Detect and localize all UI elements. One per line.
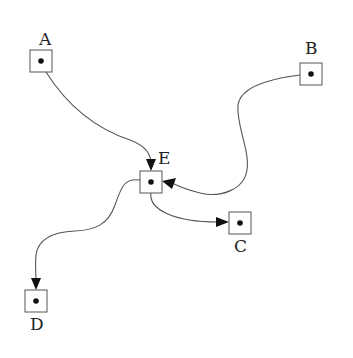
node-c-dot bbox=[237, 220, 243, 226]
arrowhead-e-to-d bbox=[31, 278, 41, 290]
edge-a-to-e bbox=[46, 72, 151, 162]
node-d-dot bbox=[33, 298, 39, 304]
node-e-dot bbox=[148, 179, 154, 185]
node-a-dot bbox=[38, 58, 44, 64]
arrowhead-e-to-c bbox=[216, 217, 229, 227]
arrowhead-a-to-e bbox=[146, 159, 156, 171]
edge-e-to-c bbox=[151, 192, 218, 222]
node-c[interactable]: C bbox=[229, 212, 251, 256]
node-a-label: A bbox=[38, 29, 52, 49]
node-d[interactable]: D bbox=[25, 290, 47, 334]
node-b-label: B bbox=[305, 38, 318, 58]
node-b[interactable]: B bbox=[300, 38, 322, 85]
graph-diagram: A B E C D bbox=[0, 0, 353, 358]
node-e-label: E bbox=[158, 148, 170, 168]
node-a[interactable]: A bbox=[30, 29, 52, 72]
edge-e-to-d bbox=[36, 180, 140, 280]
edge-b-to-e bbox=[172, 75, 300, 194]
node-b-dot bbox=[308, 71, 314, 77]
node-c-label: C bbox=[234, 236, 247, 256]
arrowhead-b-to-e bbox=[162, 178, 176, 189]
node-d-label: D bbox=[30, 314, 44, 334]
node-e[interactable]: E bbox=[140, 148, 170, 193]
